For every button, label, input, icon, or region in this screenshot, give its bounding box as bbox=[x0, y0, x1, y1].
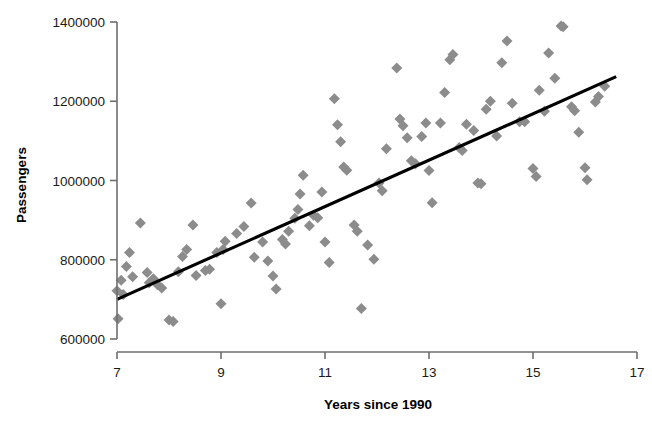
y-axis-ticks: 600000800000100000012000001400000 bbox=[52, 15, 117, 347]
data-point bbox=[582, 174, 593, 185]
data-points-group bbox=[112, 20, 611, 327]
data-point bbox=[249, 252, 260, 263]
data-point bbox=[368, 254, 379, 265]
data-point bbox=[135, 217, 146, 228]
data-point bbox=[356, 303, 367, 314]
y-tick-label: 600000 bbox=[60, 332, 105, 347]
y-tick-label: 1400000 bbox=[52, 15, 105, 30]
data-point bbox=[127, 271, 138, 282]
plot-area bbox=[112, 20, 617, 327]
data-point bbox=[534, 85, 545, 96]
data-point bbox=[335, 136, 346, 147]
data-point bbox=[316, 186, 327, 197]
data-point bbox=[231, 228, 242, 239]
data-point bbox=[268, 270, 279, 281]
data-point bbox=[391, 62, 402, 73]
chart-canvas: 600000800000100000012000001400000 791113… bbox=[0, 0, 652, 423]
data-point bbox=[416, 131, 427, 142]
x-axis-title: Years since 1990 bbox=[324, 397, 432, 412]
data-point bbox=[439, 87, 450, 98]
x-tick-label: 17 bbox=[629, 365, 644, 380]
scatter-chart: 600000800000100000012000001400000 791113… bbox=[0, 0, 652, 423]
data-point bbox=[271, 284, 282, 295]
data-point bbox=[187, 219, 198, 230]
data-point bbox=[381, 143, 392, 154]
data-point bbox=[113, 313, 124, 324]
data-point bbox=[543, 47, 554, 58]
data-point bbox=[283, 226, 294, 237]
data-point bbox=[362, 240, 373, 251]
data-point bbox=[502, 36, 513, 47]
y-tick-label: 1000000 bbox=[52, 174, 105, 189]
data-point bbox=[427, 197, 438, 208]
data-point bbox=[304, 220, 315, 231]
x-tick-label: 13 bbox=[421, 365, 436, 380]
data-point bbox=[121, 261, 132, 272]
data-point bbox=[468, 125, 479, 136]
data-point bbox=[435, 118, 446, 129]
y-tick-label: 1200000 bbox=[52, 94, 105, 109]
data-point bbox=[507, 98, 518, 109]
x-tick-label: 9 bbox=[217, 365, 225, 380]
y-axis: 600000800000100000012000001400000 bbox=[52, 15, 117, 347]
data-point bbox=[262, 255, 273, 266]
data-point bbox=[424, 165, 435, 176]
data-point bbox=[573, 127, 584, 138]
data-point bbox=[216, 298, 227, 309]
data-point bbox=[549, 73, 560, 84]
data-point bbox=[332, 119, 343, 130]
trend-line bbox=[117, 77, 616, 300]
data-point bbox=[257, 236, 268, 247]
y-axis-title: Passengers bbox=[14, 147, 29, 223]
x-tick-label: 11 bbox=[318, 365, 332, 380]
x-tick-label: 7 bbox=[113, 365, 121, 380]
data-point bbox=[402, 132, 413, 143]
x-axis-ticks: 7911131517 bbox=[113, 352, 644, 380]
data-point bbox=[298, 170, 309, 181]
data-point bbox=[324, 257, 335, 268]
data-point bbox=[496, 57, 507, 68]
x-axis: 7911131517 bbox=[113, 352, 644, 380]
data-point bbox=[420, 118, 431, 129]
y-tick-label: 800000 bbox=[60, 253, 105, 268]
data-point bbox=[320, 236, 331, 247]
data-point bbox=[295, 188, 306, 199]
data-point bbox=[124, 247, 135, 258]
data-point bbox=[329, 93, 340, 104]
data-point bbox=[461, 119, 472, 130]
data-point bbox=[246, 198, 257, 209]
data-point bbox=[191, 270, 202, 281]
data-point bbox=[292, 204, 303, 215]
x-tick-label: 15 bbox=[525, 365, 540, 380]
data-point bbox=[220, 236, 231, 247]
data-point bbox=[580, 162, 591, 173]
data-point bbox=[238, 221, 249, 232]
